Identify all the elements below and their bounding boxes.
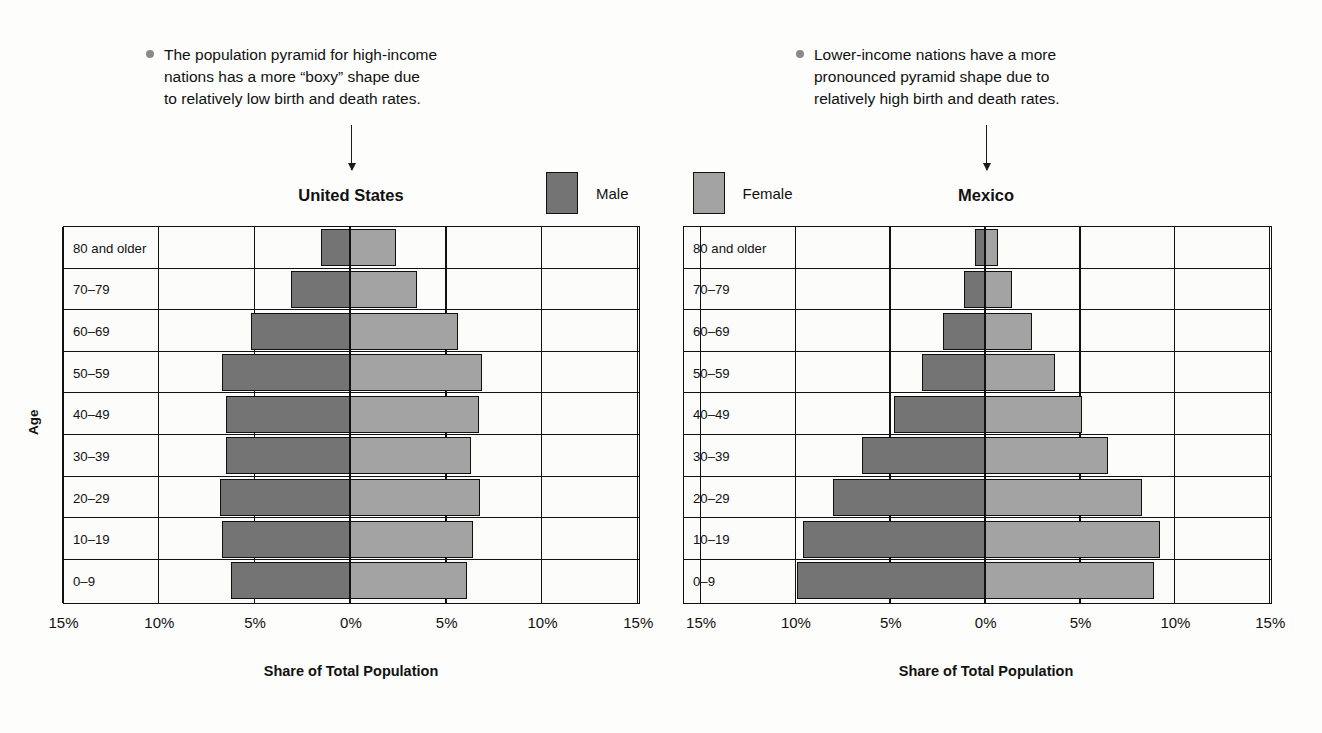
chart-united-states: 80 and older70–7960–6950–5940–4930–3920–… [63, 226, 640, 604]
center-axis-line [349, 227, 351, 603]
bar-female [350, 437, 471, 474]
legend-label-female: Female [743, 185, 793, 202]
panel-title-mexico: Mexico [886, 186, 1086, 205]
bar-male [862, 437, 985, 474]
bar-female [350, 521, 473, 558]
annotation-lower-income: Lower-income nations have a more pronoun… [796, 44, 1216, 110]
age-group-label: 0–9 [73, 573, 95, 588]
age-group-label: 40–49 [73, 407, 110, 422]
x-tick-label: 0% [340, 614, 362, 631]
bar-female [350, 229, 396, 266]
bar-male [943, 313, 985, 350]
x-tick-label: 15% [49, 614, 79, 631]
x-tick-label: 15% [686, 614, 716, 631]
annotation-line: The population pyramid for high-income [164, 44, 566, 66]
y-axis-label: Age [26, 409, 41, 435]
bar-female [985, 562, 1154, 599]
age-group-label: 60–69 [693, 324, 730, 339]
age-group-label: 40–49 [693, 407, 730, 422]
chart-mexico: 80 and older70–7960–6950–5940–4930–3920–… [683, 226, 1272, 604]
gridline [1174, 227, 1175, 603]
annotation-line: relatively high birth and death rates. [814, 88, 1216, 110]
bar-male [922, 354, 985, 391]
age-group-label: 50–59 [73, 365, 110, 380]
annotation-high-income: The population pyramid for high-income n… [146, 44, 566, 110]
bar-female [985, 271, 1012, 308]
bar-male [894, 396, 985, 433]
annotation-lower-income-text: Lower-income nations have a more pronoun… [814, 44, 1216, 110]
age-group-label: 80 and older [693, 240, 766, 255]
age-group-label: 10–19 [693, 532, 730, 547]
age-group-label: 30–39 [73, 448, 110, 463]
bar-male [222, 521, 350, 558]
bar-female [985, 479, 1142, 516]
x-tick-label: 5% [436, 614, 458, 631]
bullet-icon [146, 50, 154, 58]
bar-female [985, 354, 1055, 391]
x-tick-label: 15% [623, 614, 653, 631]
bar-female [350, 479, 480, 516]
gridline [158, 227, 159, 603]
legend-swatch-female [693, 172, 725, 214]
bar-male [291, 271, 350, 308]
bar-male [251, 313, 351, 350]
bar-female [350, 396, 478, 433]
bar-male [803, 521, 985, 558]
bar-female [985, 229, 998, 266]
age-group-label: 20–29 [73, 490, 110, 505]
age-group-label: 70–79 [693, 282, 730, 297]
bar-female [350, 562, 467, 599]
x-tick-label: 10% [144, 614, 174, 631]
bar-male [797, 562, 985, 599]
bullet-icon [796, 50, 804, 58]
annotation-arrow-right [986, 125, 987, 170]
x-tick-label: 5% [880, 614, 902, 631]
age-group-label: 30–39 [693, 448, 730, 463]
legend-label-male: Male [596, 185, 629, 202]
figure-canvas: The population pyramid for high-income n… [0, 0, 1322, 733]
age-group-label: 60–69 [73, 324, 110, 339]
x-axis-label-mexico: Share of Total Population [816, 663, 1156, 679]
legend-item-female: Female [693, 172, 793, 214]
age-group-label: 10–19 [73, 532, 110, 547]
age-group-label: 80 and older [73, 240, 146, 255]
panel-title-united-states: United States [251, 186, 451, 205]
legend: Male Female [546, 172, 793, 214]
x-tick-label: 10% [1160, 614, 1190, 631]
center-axis-line [984, 227, 986, 603]
annotation-line: Lower-income nations have a more [814, 44, 1216, 66]
age-group-label: 20–29 [693, 490, 730, 505]
bar-male [833, 479, 985, 516]
annotation-arrow-left [351, 125, 352, 170]
age-group-label: 70–79 [73, 282, 110, 297]
x-tick-label: 10% [527, 614, 557, 631]
bar-male [220, 479, 350, 516]
legend-item-male: Male [546, 172, 629, 214]
gridline [795, 227, 796, 603]
bar-male [964, 271, 985, 308]
age-group-label: 0–9 [693, 573, 715, 588]
gridline [62, 227, 63, 603]
bar-male [231, 562, 350, 599]
bar-male [226, 437, 351, 474]
bar-male [226, 396, 351, 433]
annotation-line: to relatively low birth and death rates. [164, 88, 566, 110]
bar-female [985, 521, 1160, 558]
bar-female [985, 396, 1082, 433]
scan-bleed-artifact [8, 40, 158, 110]
bar-female [985, 313, 1032, 350]
bar-male [222, 354, 350, 391]
age-group-label: 50–59 [693, 365, 730, 380]
legend-swatch-male [546, 172, 578, 214]
x-axis-label-united-states: Share of Total Population [181, 663, 521, 679]
x-tick-label: 10% [781, 614, 811, 631]
gridline [637, 227, 638, 603]
bar-female [985, 437, 1108, 474]
x-tick-label: 5% [244, 614, 266, 631]
x-tick-label: 5% [1070, 614, 1092, 631]
x-tick-label: 0% [975, 614, 997, 631]
bar-female [350, 354, 482, 391]
annotation-line: pronounced pyramid shape due to [814, 66, 1216, 88]
bar-female [350, 313, 457, 350]
annotation-high-income-text: The population pyramid for high-income n… [164, 44, 566, 110]
